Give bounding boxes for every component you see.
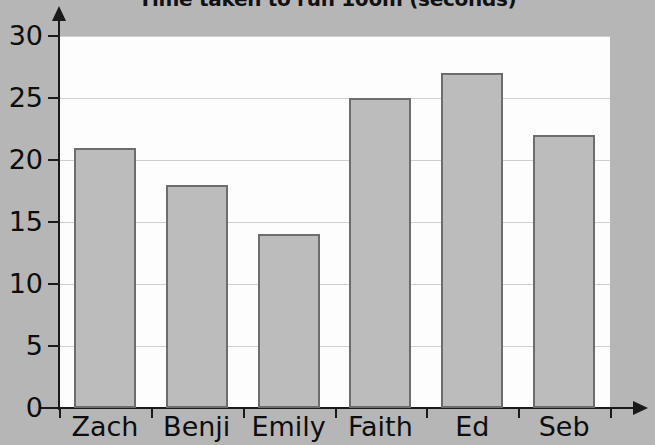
plot-area xyxy=(59,36,610,408)
bar xyxy=(533,135,595,408)
gridline xyxy=(59,160,610,161)
y-axis-arrow-icon xyxy=(52,6,66,21)
y-tick-mark xyxy=(48,97,59,99)
y-tick-mark xyxy=(48,283,59,285)
x-axis-label: Faith xyxy=(335,413,427,440)
bar xyxy=(441,73,503,408)
bar-chart: Time taken to run 100m (seconds) 0510152… xyxy=(0,0,655,445)
y-tick-mark xyxy=(48,221,59,223)
gridline xyxy=(59,346,610,347)
bar xyxy=(349,98,411,408)
y-tick-label: 5 xyxy=(26,332,43,359)
gridline xyxy=(59,36,610,37)
y-tick-label: 15 xyxy=(9,208,43,235)
y-tick-label: 10 xyxy=(9,270,43,297)
y-tick-mark xyxy=(48,159,59,161)
y-tick-label: 25 xyxy=(9,84,43,111)
y-tick-label: 30 xyxy=(9,22,43,49)
chart-title: Time taken to run 100m (seconds) xyxy=(0,0,655,11)
x-tick-mark xyxy=(610,407,612,418)
gridline xyxy=(59,284,610,285)
y-tick-mark xyxy=(48,407,59,409)
bar xyxy=(74,148,136,408)
bar xyxy=(258,234,320,408)
y-tick-mark xyxy=(48,345,59,347)
x-axis-label: Zach xyxy=(59,413,151,440)
x-axis-arrow-icon xyxy=(633,401,648,415)
gridline xyxy=(59,222,610,223)
y-tick-label: 20 xyxy=(9,146,43,173)
bar xyxy=(166,185,228,408)
y-axis-line xyxy=(58,18,60,410)
x-axis-label: Benji xyxy=(151,413,243,440)
gridline xyxy=(59,98,610,99)
y-tick-mark xyxy=(48,35,59,37)
x-axis-label: Ed xyxy=(426,413,518,440)
y-tick-label: 0 xyxy=(26,394,43,421)
x-axis-label: Emily xyxy=(243,413,335,440)
x-axis-label: Seb xyxy=(518,413,610,440)
